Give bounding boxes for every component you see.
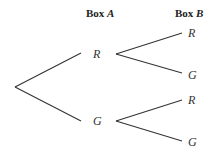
branch-a-g-to-b-r [116,100,182,121]
branch-a-r-to-b-r [116,33,182,54]
tree-branches [0,0,214,155]
node-box-a-g: G [93,115,102,127]
node-box-a-r: R [93,48,100,60]
header-box-b-var: B [196,7,203,19]
node-box-b-r-after-g: R [188,94,195,106]
node-box-b-g-after-g: G [188,136,197,148]
probability-tree-diagram: Box A Box B R G R G R G [0,0,214,155]
header-box-b-prefix: Box [175,7,193,19]
branch-a-r-to-b-g [116,54,182,73]
node-box-b-g-after-r: G [188,69,197,81]
node-box-b-r-after-r: R [188,27,195,39]
header-box-a: Box A [86,7,114,19]
branch-root-to-a-r [15,53,81,87]
branch-a-g-to-b-g [116,121,182,141]
branch-root-to-a-g [15,87,81,121]
header-box-a-prefix: Box [86,7,104,19]
header-box-b: Box B [175,7,203,19]
header-box-a-var: A [107,7,114,19]
